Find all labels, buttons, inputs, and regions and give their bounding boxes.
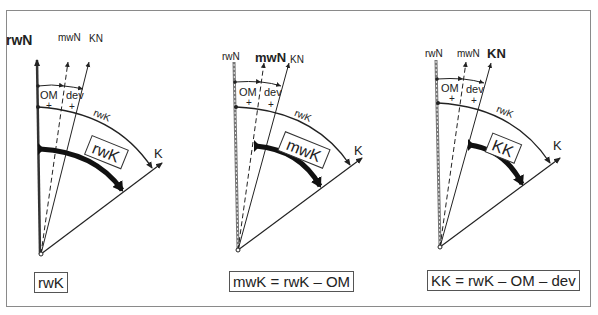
panel-magnetic-course: rwN mwN KN OM dev + + rwK K mwK: [222, 50, 363, 252]
formula-KK: KK = rwK – OM – dev: [427, 270, 580, 291]
label-dev-sign: +: [268, 99, 274, 110]
label-dev-sign: +: [69, 101, 75, 112]
label-mwN: mwN: [255, 50, 286, 65]
compass-course-diagram: rwN mwN KN OM dev + + rwK K rwK rwN mwN …: [0, 0, 598, 315]
label-KN: KN: [290, 54, 304, 65]
formula-rwK: rwK: [34, 272, 68, 293]
label-rwN: rwN: [222, 51, 240, 62]
label-dev: dev: [264, 86, 282, 98]
label-rwN: rwN: [425, 48, 443, 59]
origin-point: [39, 252, 43, 256]
panel-true-course: rwN mwN KN OM dev + + rwK K rwK: [6, 32, 163, 256]
label-mwN: mwN: [58, 32, 81, 43]
label-mwN: mwN: [457, 48, 480, 59]
label-om-sign: +: [449, 93, 455, 104]
label-om-sign: +: [46, 100, 52, 111]
label-KN: KN: [89, 33, 103, 44]
om-arc: [38, 85, 64, 86]
formula-mwK: mwK = rwK – OM: [229, 271, 354, 292]
om-arc: [437, 79, 463, 80]
label-K: K: [553, 138, 562, 153]
label-dev: dev: [66, 89, 84, 101]
origin-point: [236, 248, 240, 252]
label-rwK-arc: rwK: [293, 107, 313, 124]
label-K: K: [154, 146, 163, 161]
label-dev: dev: [466, 83, 484, 95]
course-K-line: [440, 158, 560, 247]
label-dev-sign: +: [471, 95, 477, 106]
origin-point: [438, 245, 442, 249]
om-arc: [235, 82, 261, 83]
label-K: K: [354, 143, 363, 158]
panel-compass-course: rwN mwN KN OM dev + + rwK K KK: [425, 46, 562, 249]
course-K-line: [238, 158, 362, 250]
highlighted-angle-label-box: KK: [485, 133, 521, 163]
label-rwN: rwN: [6, 32, 32, 48]
label-om-sign: +: [246, 97, 252, 108]
course-K-line: [41, 163, 162, 254]
label-rwK-arc: rwK: [92, 107, 112, 124]
label-KN: KN: [487, 46, 506, 61]
